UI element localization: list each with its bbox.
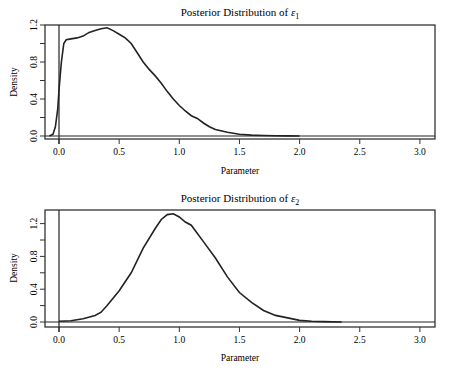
x-tick-label: 0.5 [113, 147, 125, 157]
x-tick-label: 1.0 [173, 147, 185, 157]
posterior-charts: Posterior Distribution of ε1 0.00.51.01.… [0, 0, 449, 374]
y-axis: 0.00.40.81.2 [29, 217, 45, 328]
x-tick-label: 1.5 [234, 147, 246, 157]
density-curve [49, 28, 299, 136]
x-axis-label: Parameter [221, 166, 260, 176]
chart-title: Posterior Distribution of ε1 [181, 6, 300, 21]
chart-title: Posterior Distribution of ε2 [181, 192, 300, 207]
x-tick-label: 2.0 [294, 335, 306, 345]
y-axis-label: Density [9, 67, 19, 97]
chart-panel-epsilon-1: Posterior Distribution of ε1 0.00.51.01.… [9, 6, 435, 176]
x-tick-label: 1.5 [234, 335, 246, 345]
y-tick-label: 0.8 [29, 250, 39, 262]
y-tick-label: 0.4 [29, 93, 39, 105]
chart-panel-epsilon-2: Posterior Distribution of ε2 0.00.51.01.… [9, 192, 435, 363]
y-tick-label: 0.8 [29, 56, 39, 68]
x-tick-label: 3.0 [414, 147, 426, 157]
y-axis: 0.00.40.81.2 [29, 19, 45, 142]
x-tick-label: 2.5 [354, 335, 366, 345]
y-tick-label: 1.2 [29, 19, 39, 31]
x-tick-label: 1.0 [173, 335, 185, 345]
y-axis-label: Density [9, 253, 19, 283]
x-axis-label: Parameter [221, 353, 260, 363]
x-tick-label: 0.0 [53, 147, 65, 157]
density-curve [59, 214, 342, 322]
y-tick-label: 0.4 [29, 283, 39, 295]
x-tick-label: 2.5 [354, 147, 366, 157]
x-axis: 0.00.51.01.52.02.53.0 [53, 327, 426, 345]
y-tick-label: 0.0 [29, 316, 39, 328]
x-tick-label: 2.0 [294, 147, 306, 157]
x-tick-label: 3.0 [414, 335, 426, 345]
y-tick-label: 1.2 [29, 217, 39, 229]
y-tick-label: 0.0 [29, 130, 39, 142]
x-tick-label: 0.5 [113, 335, 125, 345]
x-axis: 0.00.51.01.52.02.53.0 [53, 139, 426, 157]
plot-frame [45, 25, 435, 139]
x-tick-label: 0.0 [53, 335, 65, 345]
